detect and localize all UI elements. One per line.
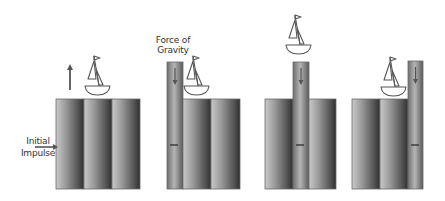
panel-1 bbox=[56, 56, 140, 189]
panel-2 bbox=[167, 56, 240, 189]
water-column bbox=[84, 99, 112, 189]
water-column bbox=[56, 99, 84, 189]
tall-water-column bbox=[167, 62, 183, 189]
water-column bbox=[309, 99, 336, 189]
sailboat-icon bbox=[85, 56, 110, 95]
panel-4 bbox=[352, 57, 423, 189]
water-column bbox=[265, 99, 293, 189]
initial-impulse-arrow-icon bbox=[35, 143, 59, 151]
water-column bbox=[112, 99, 140, 189]
water-column bbox=[380, 99, 408, 189]
tall-water-column bbox=[293, 62, 309, 189]
force-of-gravity-line2: Gravity bbox=[150, 45, 196, 55]
water-column bbox=[211, 99, 240, 189]
sailboat-icon bbox=[286, 15, 311, 54]
water-column bbox=[183, 99, 211, 189]
panel-3 bbox=[265, 15, 336, 189]
force-of-gravity-line1: Force of bbox=[150, 35, 196, 45]
sailboat-icon bbox=[381, 57, 406, 96]
wave-diagram bbox=[0, 0, 445, 201]
tall-water-column bbox=[408, 61, 423, 189]
sailboat-icon bbox=[184, 56, 209, 95]
force-of-gravity-label: Force of Gravity bbox=[150, 35, 196, 55]
water-column bbox=[352, 99, 380, 189]
